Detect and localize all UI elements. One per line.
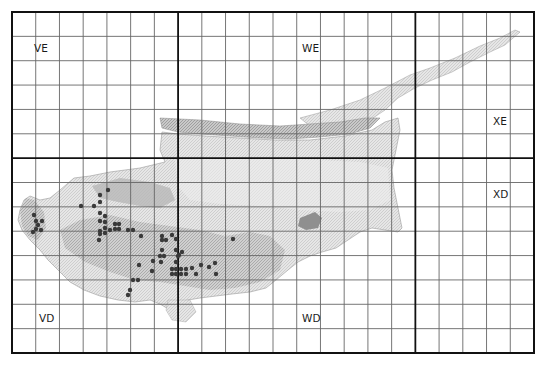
record-dot [137,263,141,267]
record-dot [174,260,178,264]
record-dot [159,260,163,264]
label-wd: WD [302,312,320,324]
record-dot [36,223,40,227]
record-dot [151,259,155,263]
record-dot [136,278,140,282]
record-dot [117,222,121,226]
map-canvas: VE WE XE XD VD WD [0,0,547,366]
record-dot [184,267,188,271]
record-dot [139,234,143,238]
record-dot [103,231,107,235]
distribution-map: VE WE XE XD VD WD [0,0,547,366]
label-we: WE [302,42,319,54]
record-dot [174,267,178,271]
label-xe: XE [493,115,507,127]
record-dot [179,272,183,276]
record-dot [160,248,164,252]
record-dot [113,227,117,231]
record-dot [32,213,36,217]
akrotiri-peninsula [166,300,196,322]
record-dot [98,219,102,223]
record-dot [231,237,235,241]
record-dot [170,272,174,276]
karpas-peninsula [300,30,520,128]
label-ve: VE [34,42,48,54]
record-dot [131,278,135,282]
record-dot [39,228,43,232]
record-dot [199,263,203,267]
record-dot [194,272,198,276]
record-dot [174,272,178,276]
record-dot [34,227,38,231]
record-dot [184,272,188,276]
record-dot [98,211,102,215]
record-dot [103,214,107,218]
record-dot [180,250,184,254]
record-dot [213,261,217,265]
label-xd: XD [493,188,508,200]
record-dot [160,238,164,242]
record-dot [160,234,164,238]
record-dot [150,269,154,273]
record-dot [162,254,166,258]
record-dot [103,226,107,230]
record-dot [214,272,218,276]
record-dot [113,222,117,226]
record-dot [92,204,96,208]
record-dot [174,237,178,241]
record-dot [126,228,130,232]
record-dot [164,238,168,242]
record-dot [117,227,121,231]
record-dot [126,293,130,297]
record-dot [131,228,135,232]
record-dot [170,267,174,271]
record-dot [98,232,102,236]
record-dot [98,193,102,197]
record-dot [40,219,44,223]
record-dot [103,220,107,224]
record-dot [98,200,102,204]
label-vd: VD [39,312,54,324]
record-dot [79,204,83,208]
record-dot [190,266,194,270]
record-dot [176,254,180,258]
record-dot [174,248,178,252]
island-landmass [18,30,520,322]
record-dot [170,233,174,237]
record-dot [207,265,211,269]
record-dot [97,238,101,242]
record-dot [128,288,132,292]
record-dot [108,228,112,232]
record-dot [106,188,110,192]
record-dot [179,267,183,271]
record-dot [158,254,162,258]
record-dot [34,219,38,223]
